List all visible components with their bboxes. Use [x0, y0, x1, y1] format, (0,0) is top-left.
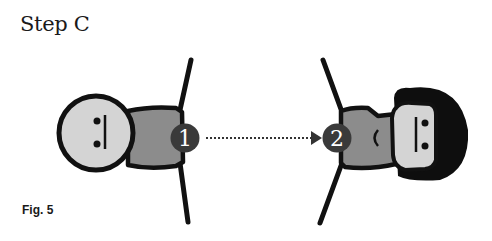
person-2-face — [392, 103, 436, 170]
person-1-eye-bottom — [94, 141, 101, 148]
diagram-scene: 1 2 — [0, 0, 492, 241]
person-2-eye-top — [422, 120, 429, 127]
connector-arrow — [206, 131, 322, 145]
arrow-head-icon — [311, 131, 322, 145]
person-2-eye-bottom — [422, 143, 429, 150]
figure-caption: Fig. 5 — [22, 203, 53, 217]
badge-1-label: 1 — [178, 126, 192, 151]
badge-2: 2 — [323, 124, 352, 153]
badge-1: 1 — [171, 124, 200, 153]
person-1-head — [59, 96, 133, 170]
person-1-eye-top — [94, 118, 101, 125]
badge-2-label: 2 — [330, 126, 344, 151]
